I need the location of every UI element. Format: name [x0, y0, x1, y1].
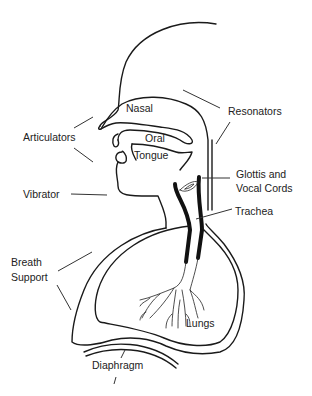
leader-resonators-lower — [216, 122, 230, 144]
leader-vibrator — [71, 194, 107, 195]
chin-outline — [116, 162, 166, 228]
vocal-anatomy-diagram: Nasal Oral Tongue Resonators Articulator… — [0, 0, 312, 396]
label-diaphragm: Diaphragm — [92, 359, 143, 372]
label-glottis-2: Vocal Cords — [236, 182, 293, 195]
leader-diaphragm-upper — [121, 350, 125, 358]
label-glottis-1: Glottis and — [236, 168, 286, 181]
label-vibrator: Vibrator — [23, 188, 60, 201]
leader-articulators-lower — [74, 148, 93, 162]
label-breath: Breath — [11, 256, 42, 269]
label-trachea: Trachea — [235, 205, 273, 218]
leader-articulators-upper — [74, 117, 93, 128]
label-nasal: Nasal — [126, 102, 153, 115]
label-resonators: Resonators — [228, 105, 282, 118]
label-tongue: Tongue — [134, 149, 168, 162]
label-oral: Oral — [145, 132, 165, 145]
leader-diaphragm-lower — [114, 377, 116, 384]
label-lungs: Lungs — [186, 317, 215, 330]
leader-breath-upper — [58, 252, 92, 271]
trachea-front-wall — [175, 184, 190, 262]
leader-breath-lower — [57, 285, 71, 310]
label-support: Support — [11, 271, 48, 284]
lung-cavity — [95, 226, 238, 345]
upper-lip — [113, 134, 119, 147]
label-articulators: Articulators — [23, 131, 76, 144]
vocal-cords-icon — [180, 181, 198, 191]
head-outline — [100, 23, 216, 126]
lower-lip — [116, 151, 126, 163]
